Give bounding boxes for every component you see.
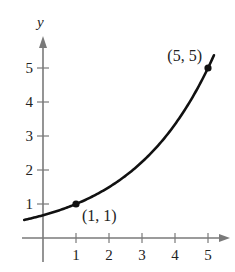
- x-axis-arrow-icon: [219, 234, 230, 242]
- labeled-points: (1, 1)(5, 5): [72, 47, 211, 225]
- x-tick-label: 4: [171, 247, 179, 263]
- y-axis-title: y: [35, 14, 44, 30]
- y-tick-label: 4: [26, 94, 34, 110]
- y-tick-label: 2: [26, 162, 34, 178]
- y-axis-arrow-icon: [39, 36, 47, 48]
- y-tick-label: 5: [26, 60, 34, 76]
- data-point: [72, 200, 79, 207]
- exponential-curve: [24, 55, 214, 220]
- data-point: [204, 64, 211, 71]
- y-axis: y: [35, 14, 47, 262]
- point-label: (5, 5): [167, 47, 202, 65]
- y-tick-label: 3: [26, 128, 34, 144]
- x-tick-label: 5: [204, 247, 212, 263]
- x-tick-label: 3: [138, 247, 146, 263]
- x-axis: [22, 234, 230, 242]
- x-tick-label: 2: [105, 247, 113, 263]
- x-tick-label: 1: [72, 247, 80, 263]
- y-ticks: 12345: [26, 60, 50, 212]
- exponential-chart: y 12345 12345 (1, 1)(5, 5): [0, 0, 235, 272]
- y-tick-label: 1: [26, 196, 34, 212]
- point-label: (1, 1): [82, 207, 117, 225]
